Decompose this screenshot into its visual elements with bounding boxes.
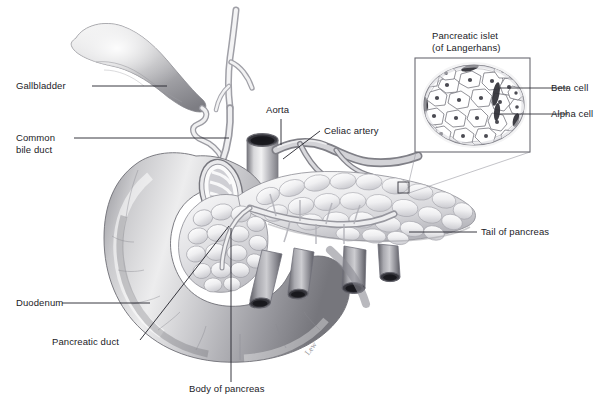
label-beta-cell: Beta cell — [551, 82, 588, 94]
label-celiac-artery: Celiac artery — [324, 125, 379, 137]
label-gallbladder: Gallbladder — [16, 80, 66, 92]
label-duodenum: Duodenum — [16, 297, 63, 309]
label-pancreatic-duct: Pancreatic duct — [52, 336, 119, 348]
anatomy-figure: Gallbladder Common bile duct Aorta Celia… — [0, 0, 614, 418]
pancreatic-islet-inset — [415, 57, 568, 156]
inset-title-line2: (of Langerhans) — [432, 42, 501, 55]
label-alpha-cell: Alpha cell — [551, 108, 593, 120]
label-tail-of-pancreas: Tail of pancreas — [481, 226, 549, 238]
label-body-of-pancreas: Body of pancreas — [189, 383, 265, 395]
inset-title-line1: Pancreatic islet — [432, 30, 498, 43]
label-aorta: Aorta — [266, 104, 289, 116]
label-common-bile-duct-line2: bile duct — [16, 144, 52, 156]
label-common-bile-duct-line1: Common — [16, 132, 55, 144]
celiac-artery-vessel — [276, 140, 418, 176]
